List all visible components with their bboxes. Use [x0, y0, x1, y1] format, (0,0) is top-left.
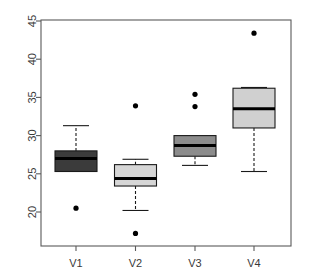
- boxplot-chart: 202530354045 V1V2V3V4: [0, 0, 313, 279]
- box-body: [55, 151, 97, 172]
- outlier-point: [133, 231, 138, 236]
- chart-background: [0, 0, 313, 279]
- x-tick-label-v4: V4: [247, 257, 260, 269]
- outlier-point: [192, 104, 197, 109]
- outlier-point: [133, 103, 138, 108]
- y-tick-label: 20: [26, 206, 38, 218]
- x-tick-label-v3: V3: [188, 257, 201, 269]
- y-tick-label: 30: [26, 129, 38, 141]
- y-tick-label: 45: [26, 15, 38, 27]
- outlier-point: [192, 92, 197, 97]
- outlier-point: [251, 31, 256, 36]
- x-tick-label-v1: V1: [69, 257, 82, 269]
- y-tick-label: 40: [26, 53, 38, 65]
- boxplot-canvas: 202530354045 V1V2V3V4: [0, 0, 313, 279]
- y-tick-label: 35: [26, 91, 38, 103]
- y-tick-label: 25: [26, 168, 38, 180]
- box-body: [115, 165, 157, 186]
- x-tick-label-v2: V2: [129, 257, 142, 269]
- outlier-point: [73, 206, 78, 211]
